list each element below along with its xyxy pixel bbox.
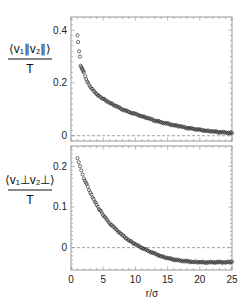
top-axis-ticks: 00.20.4 — [53, 17, 232, 141]
x-tick-label: 20 — [194, 274, 206, 285]
data-point — [88, 189, 91, 192]
data-point — [76, 157, 79, 160]
x-tick-label: 5 — [100, 274, 106, 285]
top-plot-frame — [71, 17, 232, 141]
data-point — [76, 40, 79, 43]
panel-parallel-correlation: 00.20.4 ⟨v₁∥v₂∥⟩ T — [8, 17, 234, 141]
y-tick-label: 0.2 — [53, 161, 67, 172]
data-point — [78, 165, 81, 168]
y-tick-label: 0 — [61, 242, 67, 253]
data-point — [81, 173, 84, 176]
data-point — [77, 161, 80, 164]
data-point — [78, 55, 81, 58]
y-tick-label: 0.4 — [53, 25, 67, 36]
data-point — [76, 34, 79, 37]
top-ylabel-numerator: ⟨v₁∥v₂∥⟩ — [9, 42, 52, 56]
y-tick-label: 0 — [61, 130, 67, 141]
x-tick-label: 15 — [162, 274, 174, 285]
panel-perpendicular-correlation: 00.10.20510152025 ⟨v₁⊥v₂⊥⟩ T r/σ — [5, 146, 238, 299]
y-tick-label: 0.1 — [53, 201, 67, 212]
bottom-ylabel-numerator: ⟨v₁⊥v₂⊥⟩ — [5, 173, 56, 187]
bottom-ylabel-denominator: T — [26, 193, 34, 207]
bottom-y-axis-label: ⟨v₁⊥v₂⊥⟩ T — [5, 173, 56, 207]
top-data-points — [76, 34, 234, 135]
data-point — [77, 50, 80, 53]
x-tick-label: 25 — [226, 274, 238, 285]
figure: 00.20.4 ⟨v₁∥v₂∥⟩ T 00.10.20510152025 ⟨v₁… — [0, 0, 252, 308]
y-tick-label: 0.2 — [53, 77, 67, 88]
data-point — [80, 169, 83, 172]
top-ylabel-denominator: T — [26, 62, 34, 76]
x-tick-label: 10 — [130, 274, 142, 285]
x-tick-label: 0 — [68, 274, 74, 285]
x-axis-label: r/σ — [146, 288, 159, 299]
bottom-data-points — [76, 157, 234, 265]
top-y-axis-label: ⟨v₁∥v₂∥⟩ T — [8, 42, 52, 76]
